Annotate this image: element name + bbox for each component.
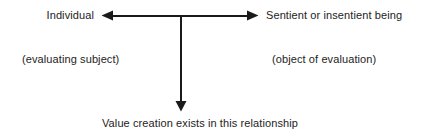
right-node-label: Sentient or insentient being [266,9,402,22]
down-arrowhead-icon [176,101,187,112]
bottom-caption-label: Value creation exists in this relationsh… [0,117,400,130]
right-node-sublabel: (object of evaluation) [272,53,376,66]
left-arrowhead-icon [102,11,114,21]
left-node-sublabel: (evaluating subject) [22,53,119,66]
relationship-diagram: Individual Sentient or insentient being … [0,0,440,135]
right-arrowhead-icon [247,11,259,21]
left-node-label: Individual [0,9,94,22]
